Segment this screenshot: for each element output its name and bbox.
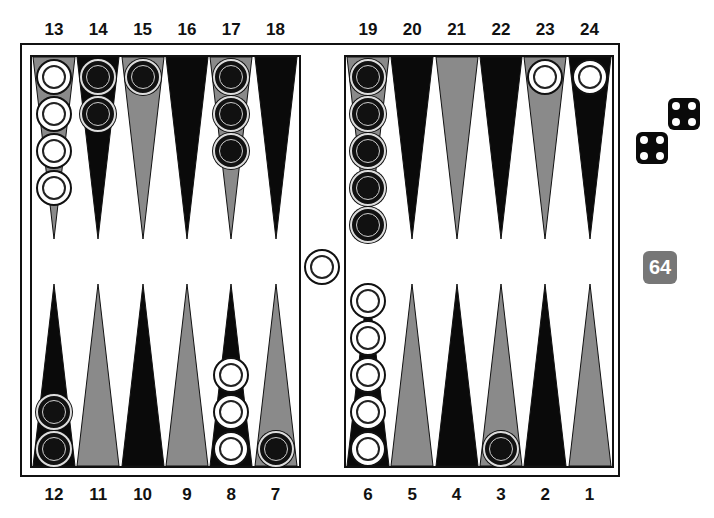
point-21[interactable] [435,57,479,239]
point-triangle [121,284,165,466]
white-checker[interactable] [213,394,249,430]
white-checker[interactable] [572,59,608,95]
point-triangle [390,57,434,239]
white-checker[interactable] [213,431,249,467]
black-checker[interactable] [36,394,72,430]
black-checker[interactable] [125,59,161,95]
point-label-4: 4 [435,485,479,505]
die-pip-icon [688,102,696,110]
point-label-6: 6 [346,485,390,505]
white-checker[interactable] [304,249,340,285]
die-pip-icon [640,136,648,144]
point-label-22: 22 [479,20,523,40]
point-20[interactable] [390,57,434,239]
die-2[interactable] [636,132,668,164]
black-checker[interactable] [36,431,72,467]
black-checker[interactable] [258,431,294,467]
die-pip-icon [656,152,664,160]
white-checker[interactable] [36,59,72,95]
point-2[interactable] [523,284,567,466]
white-checker[interactable] [350,357,386,393]
point-label-7: 7 [254,485,298,505]
black-checker[interactable] [213,96,249,132]
point-triangle [523,284,567,466]
point-label-18: 18 [254,20,298,40]
point-5[interactable] [390,284,434,466]
black-checker[interactable] [350,207,386,243]
doubling-cube[interactable]: 64 [643,251,677,284]
black-checker[interactable] [483,431,519,467]
white-checker[interactable] [36,170,72,206]
point-10[interactable] [121,284,165,466]
white-checker[interactable] [36,96,72,132]
point-triangle [435,57,479,239]
black-checker[interactable] [350,170,386,206]
point-triangle [390,284,434,466]
point-1[interactable] [568,284,612,466]
point-label-9: 9 [165,485,209,505]
die-pip-icon [656,136,664,144]
point-label-20: 20 [390,20,434,40]
point-triangle [165,57,209,239]
point-triangle [435,284,479,466]
point-label-19: 19 [346,20,390,40]
die-pip-icon [640,152,648,160]
black-checker[interactable] [350,96,386,132]
point-4[interactable] [435,284,479,466]
point-triangle [568,284,612,466]
point-triangle [165,284,209,466]
point-label-8: 8 [209,485,253,505]
white-checker[interactable] [350,394,386,430]
white-checker[interactable] [350,283,386,319]
point-16[interactable] [165,57,209,239]
black-checker[interactable] [213,59,249,95]
die-1[interactable] [668,98,700,130]
white-checker[interactable] [213,357,249,393]
white-checker[interactable] [350,320,386,356]
point-label-14: 14 [76,20,120,40]
point-triangle [254,57,298,239]
die-pip-icon [672,118,680,126]
point-label-12: 12 [32,485,76,505]
white-checker[interactable] [36,133,72,169]
white-checker[interactable] [350,431,386,467]
point-triangle [479,57,523,239]
point-18[interactable] [254,57,298,239]
point-22[interactable] [479,57,523,239]
die-pip-icon [688,118,696,126]
cube-value: 64 [649,256,671,279]
point-label-3: 3 [479,485,523,505]
point-label-11: 11 [76,485,120,505]
point-label-13: 13 [32,20,76,40]
point-label-17: 17 [209,20,253,40]
point-label-10: 10 [121,485,165,505]
point-label-5: 5 [390,485,434,505]
point-label-1: 1 [568,485,612,505]
point-label-23: 23 [523,20,567,40]
point-label-2: 2 [523,485,567,505]
white-checker[interactable] [527,59,563,95]
black-checker[interactable] [350,133,386,169]
black-checker[interactable] [213,133,249,169]
point-label-16: 16 [165,20,209,40]
point-11[interactable] [76,284,120,466]
point-9[interactable] [165,284,209,466]
point-triangle [76,284,120,466]
point-label-15: 15 [121,20,165,40]
point-label-24: 24 [568,20,612,40]
die-pip-icon [672,102,680,110]
black-checker[interactable] [350,59,386,95]
point-label-21: 21 [435,20,479,40]
